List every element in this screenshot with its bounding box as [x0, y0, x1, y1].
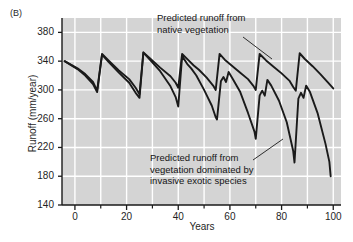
x-tick-label: 0	[60, 212, 90, 222]
annotation-invasive-species: Predicted runoff from vegetation dominat…	[150, 152, 254, 187]
x-tick-label: 20	[112, 212, 142, 222]
panel-label: (B)	[10, 8, 22, 18]
y-tick-label: 220	[20, 142, 54, 152]
y-tick-label: 140	[20, 200, 54, 210]
y-tick-label: 300	[20, 85, 54, 95]
y-tick-label: 380	[20, 27, 54, 37]
x-tick-label: 100	[318, 212, 348, 222]
x-axis-title: Years	[62, 221, 342, 232]
y-tick-label: 180	[20, 171, 54, 181]
x-tick-label: 60	[215, 212, 245, 222]
x-tick-label: 80	[267, 212, 297, 222]
y-tick-label: 260	[20, 114, 54, 124]
x-tick-label: 40	[163, 212, 193, 222]
annotation-native-vegetation: Predicted runoff from native vegetation	[157, 12, 246, 35]
y-tick-label: 340	[20, 56, 54, 66]
figure-panel-b: (B) Runoff (mm/year) Years Predicted run…	[0, 0, 353, 242]
